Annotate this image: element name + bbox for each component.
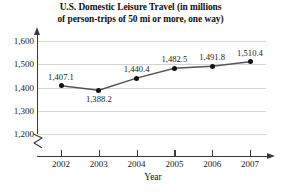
x-axis-tick-label: 2006 (192, 159, 232, 169)
x-axis-tick-label: 2004 (117, 159, 157, 169)
data-point-marker (59, 83, 64, 88)
data-point-label: 1,510.4 (225, 48, 275, 58)
x-axis-tick-label: 2005 (154, 159, 194, 169)
x-axis-tick-mark (137, 150, 138, 156)
chart-container: U.S. Domestic Leisure Travel (in million… (0, 0, 281, 192)
x-axis-tick-mark (99, 150, 100, 156)
x-axis-tick-label: 2003 (79, 159, 119, 169)
x-axis-tick-mark (212, 150, 213, 156)
data-point-marker (248, 59, 253, 64)
data-point-label: 1,440.4 (112, 64, 162, 74)
data-point-marker (210, 64, 215, 69)
x-axis-tick-label: 2007 (230, 159, 270, 169)
data-point-label: 1,388.2 (74, 94, 124, 104)
x-axis-tick-mark (174, 150, 175, 156)
x-axis-tick-mark (61, 150, 62, 156)
x-axis-tick-mark (250, 150, 251, 156)
data-point-marker (134, 76, 139, 81)
x-axis-tick-label: 2002 (41, 159, 81, 169)
x-axis-title: Year (38, 172, 268, 182)
data-point-marker (172, 66, 177, 71)
data-point-label: 1,407.1 (36, 72, 86, 82)
